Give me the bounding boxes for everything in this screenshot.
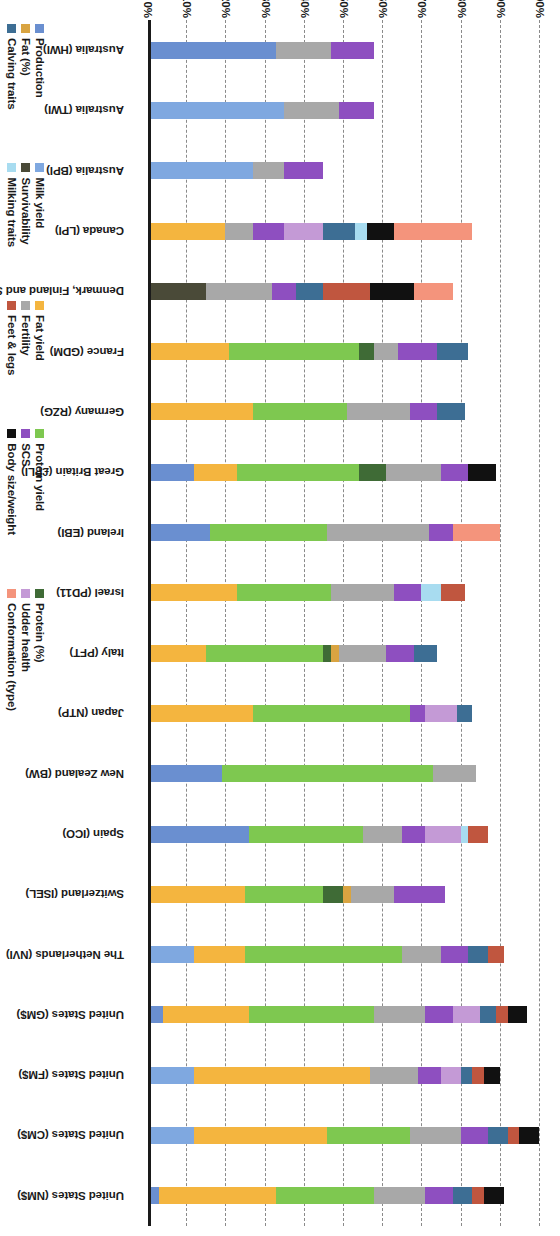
bar-column[interactable]: [151, 201, 540, 261]
stacked-bar[interactable]: [151, 1006, 540, 1023]
stacked-bar[interactable]: [151, 946, 540, 963]
bar-column[interactable]: [151, 1105, 540, 1165]
stacked-bar[interactable]: [151, 645, 540, 662]
bar-column[interactable]: [151, 924, 540, 984]
bar-segment[interactable]: [249, 1006, 374, 1023]
bar-segment[interactable]: [363, 826, 402, 843]
bar-segment[interactable]: [457, 705, 473, 722]
bar-segment[interactable]: [194, 464, 237, 481]
bar-segment[interactable]: [508, 1006, 528, 1023]
bar-segment[interactable]: [484, 1067, 500, 1084]
bar-segment[interactable]: [151, 223, 225, 240]
bar-segment[interactable]: [453, 1006, 480, 1023]
bar-segment[interactable]: [441, 1067, 461, 1084]
legend-item[interactable]: Milk yield: [34, 163, 46, 247]
bar-segment[interactable]: [229, 343, 358, 360]
bar-column[interactable]: [151, 563, 540, 623]
bar-column[interactable]: [151, 744, 540, 804]
bar-column[interactable]: [151, 864, 540, 924]
bar-column[interactable]: [151, 20, 540, 80]
bar-segment[interactable]: [151, 705, 253, 722]
bar-segment[interactable]: [245, 886, 323, 903]
bar-segment[interactable]: [402, 946, 441, 963]
legend-item[interactable]: Fat (%): [20, 24, 32, 109]
bar-segment[interactable]: [323, 886, 343, 903]
stacked-bar[interactable]: [151, 1187, 540, 1204]
bar-segment[interactable]: [151, 1187, 159, 1204]
bar-segment[interactable]: [425, 826, 460, 843]
bar-segment[interactable]: [453, 524, 500, 541]
bar-segment[interactable]: [496, 1006, 508, 1023]
bar-segment[interactable]: [276, 42, 331, 59]
bar-segment[interactable]: [163, 1006, 249, 1023]
bar-segment[interactable]: [151, 826, 249, 843]
bar-segment[interactable]: [339, 102, 374, 119]
bar-segment[interactable]: [414, 283, 453, 300]
bar-segment[interactable]: [284, 223, 323, 240]
bar-segment[interactable]: [194, 1067, 370, 1084]
bar-segment[interactable]: [355, 223, 367, 240]
bar-segment[interactable]: [374, 1006, 425, 1023]
legend-item[interactable]: Conformation (type): [6, 589, 18, 711]
bar-segment[interactable]: [327, 524, 429, 541]
bar-column[interactable]: [151, 683, 540, 743]
legend-item[interactable]: Survivability: [20, 163, 32, 247]
legend-item[interactable]: Production: [34, 24, 46, 109]
bar-segment[interactable]: [151, 403, 253, 420]
bar-segment[interactable]: [374, 1187, 425, 1204]
bar-segment[interactable]: [410, 1127, 461, 1144]
bar-segment[interactable]: [253, 223, 284, 240]
bar-column[interactable]: [151, 623, 540, 683]
bar-segment[interactable]: [237, 464, 359, 481]
bar-segment[interactable]: [398, 343, 437, 360]
bar-segment[interactable]: [151, 645, 206, 662]
bar-segment[interactable]: [253, 705, 410, 722]
bar-column[interactable]: [151, 502, 540, 562]
bar-segment[interactable]: [327, 1127, 409, 1144]
bar-segment[interactable]: [468, 464, 495, 481]
bar-segment[interactable]: [253, 403, 347, 420]
bar-segment[interactable]: [418, 1067, 442, 1084]
bar-segment[interactable]: [425, 1187, 452, 1204]
bar-segment[interactable]: [151, 1067, 194, 1084]
bar-segment[interactable]: [402, 826, 426, 843]
bar-segment[interactable]: [210, 524, 328, 541]
bar-segment[interactable]: [151, 886, 245, 903]
stacked-bar[interactable]: [151, 223, 540, 240]
bar-segment[interactable]: [151, 283, 206, 300]
bar-segment[interactable]: [414, 645, 438, 662]
bar-segment[interactable]: [386, 645, 413, 662]
bar-column[interactable]: [151, 382, 540, 442]
legend-item[interactable]: Fertility: [20, 301, 32, 375]
bar-segment[interactable]: [284, 162, 323, 179]
bar-segment[interactable]: [273, 283, 297, 300]
bar-segment[interactable]: [323, 223, 354, 240]
bar-column[interactable]: [151, 804, 540, 864]
bar-segment[interactable]: [284, 102, 339, 119]
stacked-bar[interactable]: [151, 584, 540, 601]
bar-segment[interactable]: [433, 765, 476, 782]
bar-segment[interactable]: [245, 946, 402, 963]
stacked-bar[interactable]: [151, 403, 540, 420]
stacked-bar[interactable]: [151, 1127, 540, 1144]
legend-item[interactable]: Fat yield: [34, 301, 46, 375]
bar-column[interactable]: [151, 442, 540, 502]
bar-segment[interactable]: [480, 1006, 496, 1023]
bar-segment[interactable]: [484, 1187, 504, 1204]
bar-segment[interactable]: [237, 584, 331, 601]
bar-segment[interactable]: [508, 1127, 520, 1144]
bar-segment[interactable]: [374, 343, 398, 360]
bar-segment[interactable]: [331, 42, 374, 59]
bar-segment[interactable]: [370, 283, 413, 300]
bar-segment[interactable]: [194, 946, 245, 963]
stacked-bar[interactable]: [151, 765, 540, 782]
bar-segment[interactable]: [468, 826, 488, 843]
bar-segment[interactable]: [461, 1067, 473, 1084]
bar-segment[interactable]: [151, 102, 284, 119]
bar-segment[interactable]: [323, 645, 331, 662]
bar-segment[interactable]: [222, 765, 434, 782]
bar-segment[interactable]: [453, 1187, 473, 1204]
bar-segment[interactable]: [394, 584, 421, 601]
bar-segment[interactable]: [347, 403, 410, 420]
bar-segment[interactable]: [194, 1127, 327, 1144]
